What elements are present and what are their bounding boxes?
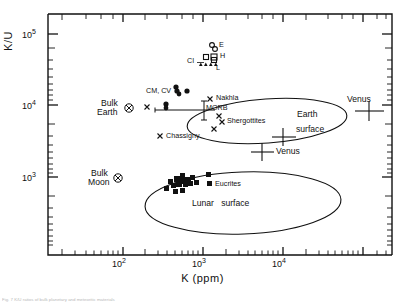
chondrite-markers (197, 43, 218, 66)
label-earth-surface-line2: surface (296, 125, 324, 135)
earth-surface-ellipse (186, 93, 349, 148)
x-marker-unlabeled-left (145, 105, 150, 110)
y-axis-title: K/U (2, 0, 14, 96)
x-marker-shergottite-3 (212, 127, 217, 132)
label-e: E (219, 41, 224, 49)
label-earth-surface-line1: Earth (297, 110, 318, 120)
label-h: H (220, 52, 225, 60)
x-tick-label-100: 102 (112, 257, 126, 269)
x-tick-label-10000: 104 (272, 257, 286, 269)
label-morb: MORB (206, 104, 228, 112)
bulk-earth-symbol (125, 104, 133, 112)
y-tick-label-100000: 105 (22, 28, 36, 40)
label-venus-right: Venus (347, 95, 371, 105)
x-marker-shergottite-2 (220, 120, 225, 125)
x-marker-nakhla (208, 97, 213, 102)
bulk-moon-symbol (114, 174, 122, 182)
x-axis-title: K (ppm) (0, 272, 405, 284)
venus-cross-mid (272, 128, 296, 146)
venus-cross-lower (251, 143, 274, 161)
x-marker-chassigny (158, 134, 163, 139)
label-lunar-surface: Lunar surface (192, 199, 249, 209)
label-bulk-moon-line2: Moon (88, 178, 110, 188)
label-shergottites: Shergottites (227, 117, 265, 125)
figure-caption: Fig. 7 K/U ratios of bulk planetary and … (2, 297, 402, 302)
label-nakhla: Nakhla (216, 94, 238, 102)
x-tick-label-1000: 103 (192, 257, 206, 269)
label-eucrites: Eucrites (215, 180, 241, 188)
y-tick-label-1000: 103 (22, 171, 36, 183)
y-axis-ticks (48, 34, 392, 245)
label-bulk-earth-line2: Earth (97, 108, 118, 118)
y-tick-label-10000: 104 (22, 99, 36, 111)
label-venus-lower: Venus (276, 147, 300, 157)
label-chassigny: Chassigny (166, 132, 200, 140)
label-ci: CI (187, 57, 194, 65)
label-l: L (216, 64, 220, 72)
x-marker-shergottite-1 (217, 114, 222, 119)
figure-container: K/U K (ppm) 102 103 104 105 104 103 E H … (0, 0, 405, 307)
label-cm-cv: CM, CV (146, 87, 171, 95)
